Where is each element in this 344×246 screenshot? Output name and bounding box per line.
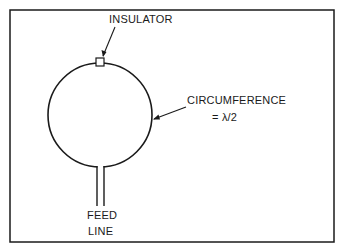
feed-gap-mask: [98, 164, 104, 170]
loop-circle: [48, 63, 152, 167]
insulator-box: [96, 58, 104, 66]
frame-border: [10, 10, 334, 242]
feed-line-label-2: LINE: [88, 225, 113, 237]
circumference-arrowhead: [153, 115, 160, 120]
insulator-label: INSULATOR: [109, 13, 173, 25]
circumference-value: = λ/2: [212, 111, 237, 123]
circumference-label: CIRCUMFERENCE: [187, 94, 286, 106]
insulator-arrowhead: [102, 50, 107, 57]
feed-line-label-1: FEED: [87, 209, 117, 221]
loop-antenna-diagram: INSULATOR CIRCUMFERENCE = λ/2 FEED LINE: [0, 0, 344, 246]
